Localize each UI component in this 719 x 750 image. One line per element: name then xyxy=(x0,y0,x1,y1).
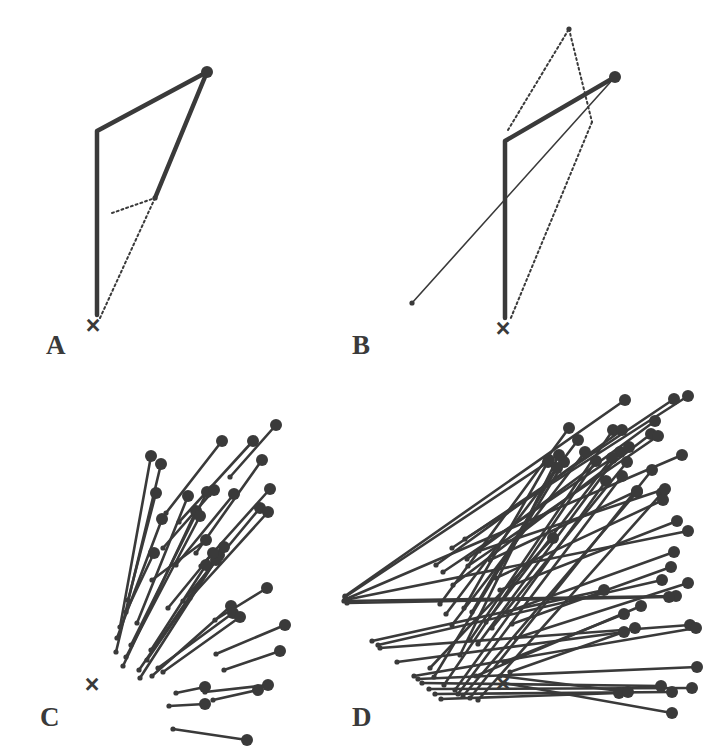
segment-end-dot xyxy=(256,454,268,466)
segment-end-dot xyxy=(666,707,678,719)
segment-start-dot xyxy=(163,510,168,515)
segment-start-dot xyxy=(173,562,178,567)
segment-end-dot xyxy=(622,686,634,698)
segment-end-dot xyxy=(182,490,194,502)
segment-start-dot xyxy=(134,620,139,625)
segment-start-dot xyxy=(427,665,432,670)
segment-start-dot xyxy=(149,673,154,678)
vector-segment xyxy=(224,651,280,670)
segment-start-dot xyxy=(113,649,118,654)
segment-start-dot xyxy=(148,647,153,652)
segment-start-dot xyxy=(464,556,469,561)
segment-end-dot xyxy=(201,66,213,78)
four-panel-vector-figure: A×B×C×D× xyxy=(0,0,719,750)
segment-start-dot xyxy=(394,659,399,664)
segment-end-dot xyxy=(228,488,240,500)
segment-end-dot xyxy=(686,682,698,694)
segment-end-dot xyxy=(208,484,220,496)
segment-start-dot xyxy=(433,562,438,567)
segment-start-dot xyxy=(438,696,443,701)
segment-end-dot xyxy=(663,591,675,603)
segment-end-dot xyxy=(618,608,630,620)
segment-end-dot xyxy=(194,510,206,522)
segment-start-dot xyxy=(137,675,142,680)
segment-end-dot xyxy=(547,532,559,544)
segment-start-dot xyxy=(377,645,382,650)
segment-start-dot xyxy=(369,638,374,643)
segment-start-dot xyxy=(128,642,133,647)
segment-start-dot xyxy=(120,663,125,668)
segment-start-dot xyxy=(176,519,181,524)
segment-start-dot xyxy=(437,601,442,606)
segment-start-dot xyxy=(566,26,571,31)
segment-end-dot xyxy=(649,415,661,427)
segment-start-dot xyxy=(493,575,498,580)
segment-start-dot xyxy=(136,667,141,672)
panel-a xyxy=(97,66,213,318)
segment-start-dot xyxy=(441,682,446,687)
segment-end-dot xyxy=(616,470,628,482)
segment-start-dot xyxy=(166,703,171,708)
segment-end-dot xyxy=(270,419,282,431)
segment-start-dot xyxy=(187,595,192,600)
segment-end-dot xyxy=(274,645,286,657)
segment-start-dot xyxy=(123,609,128,614)
segment-end-dot xyxy=(691,661,703,673)
segment-start-dot xyxy=(426,686,431,691)
segment-end-dot xyxy=(262,506,274,518)
segment-start-dot xyxy=(440,569,445,574)
segment-start-dot xyxy=(473,673,478,678)
origin-x-marker-b: × xyxy=(496,314,511,342)
segment-start-dot xyxy=(460,693,465,698)
render-layer xyxy=(97,26,703,746)
segment-end-dot xyxy=(623,441,635,453)
segment-start-dot xyxy=(462,536,467,541)
segment-start-dot xyxy=(227,474,232,479)
segment-end-dot xyxy=(264,483,276,495)
panel-c xyxy=(113,419,291,746)
segment-end-dot xyxy=(659,483,671,495)
origin-x-marker-a: × xyxy=(86,311,101,339)
segment-start-dot xyxy=(489,625,494,630)
segment-end-dot xyxy=(682,525,694,537)
segment-start-dot xyxy=(475,641,480,646)
segment-end-dot xyxy=(619,394,631,406)
segment-end-dot xyxy=(216,435,228,447)
segment-start-dot xyxy=(165,605,170,610)
segment-end-dot xyxy=(666,686,678,698)
segment-end-dot xyxy=(199,681,211,693)
segment-start-dot xyxy=(117,624,122,629)
segment-start-dot xyxy=(432,691,437,696)
vector-segment xyxy=(412,77,615,303)
dotted-connector xyxy=(569,29,592,122)
segment-start-dot xyxy=(475,697,480,702)
segment-start-dot xyxy=(212,617,217,622)
segment-end-dot xyxy=(150,487,162,499)
segment-start-dot xyxy=(501,659,506,664)
segment-start-dot xyxy=(449,622,454,627)
segment-end-dot xyxy=(618,626,630,638)
panel-label-d: D xyxy=(352,702,372,732)
segment-start-dot xyxy=(170,726,175,731)
segment-end-dot xyxy=(652,430,664,442)
segment-start-dot xyxy=(409,300,414,305)
segment-start-dot xyxy=(160,545,165,550)
segment-start-dot xyxy=(509,621,514,626)
dotted-connector xyxy=(510,122,592,320)
segment-start-dot xyxy=(152,195,157,200)
segment-end-dot xyxy=(252,684,264,696)
segment-end-dot xyxy=(279,619,291,631)
segment-end-dot xyxy=(631,485,643,497)
panel-label-b: B xyxy=(352,330,370,360)
segment-end-dot xyxy=(200,534,212,546)
segment-end-dot xyxy=(606,452,618,464)
segment-start-dot xyxy=(513,635,518,640)
segment-end-dot xyxy=(655,680,667,692)
segment-start-dot xyxy=(149,577,154,582)
segment-start-dot xyxy=(455,691,460,696)
vector-segment xyxy=(166,441,222,513)
segment-start-dot xyxy=(144,657,149,662)
segment-end-dot xyxy=(218,541,230,553)
segment-start-dot xyxy=(449,545,454,550)
segment-end-dot xyxy=(148,547,160,559)
